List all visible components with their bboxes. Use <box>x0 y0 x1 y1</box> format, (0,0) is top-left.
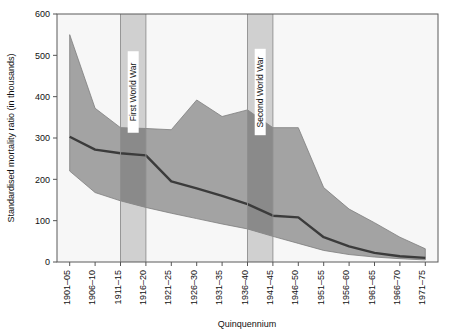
x-tick-label: 1966–70 <box>392 270 402 305</box>
x-tick-label: 1921–25 <box>163 270 173 305</box>
x-tick-label: 1941–45 <box>265 270 275 305</box>
y-tick-label: 200 <box>35 175 50 185</box>
y-tick-label: 100 <box>35 216 50 226</box>
y-axis-title: Standardised mortality ratio (in thousan… <box>6 53 16 222</box>
x-tick-label: 1951–55 <box>316 270 326 305</box>
y-tick-label: 500 <box>35 51 50 61</box>
x-tick-label: 1916–20 <box>138 270 148 305</box>
x-tick-label: 1961–65 <box>367 270 377 305</box>
x-axis: 1901–051906–101911–151916–201921–251926–… <box>62 262 428 305</box>
x-tick-label: 1971–75 <box>417 270 427 305</box>
x-tick-label: 1956–60 <box>341 270 351 305</box>
y-tick-label: 0 <box>45 257 50 267</box>
y-tick-label: 400 <box>35 92 50 102</box>
x-tick-label: 1926–30 <box>189 270 199 305</box>
war-band-label: First World War <box>128 63 138 122</box>
x-axis-title: Quinquennium <box>218 319 277 329</box>
x-tick-label: 1946–50 <box>290 270 300 305</box>
y-tick-label: 600 <box>35 9 50 19</box>
y-tick-label: 300 <box>35 133 50 143</box>
x-tick-label: 1906–10 <box>87 270 97 305</box>
x-tick-label: 1936–40 <box>240 270 250 305</box>
x-tick-label: 1911–15 <box>113 270 123 304</box>
war-band-label: Second World War <box>255 56 265 127</box>
x-tick-label: 1931–35 <box>214 270 224 305</box>
y-axis: 0100200300400500600 <box>35 9 57 267</box>
x-tick-label: 1901–05 <box>62 270 72 305</box>
mortality-area-chart: First World WarSecond World War 01002003… <box>0 0 450 334</box>
chart-container: First World WarSecond World War 01002003… <box>0 0 450 334</box>
